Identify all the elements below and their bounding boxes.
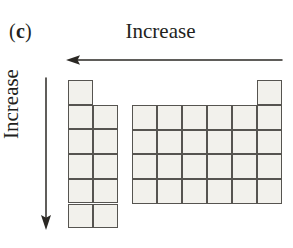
table-cell	[132, 179, 157, 204]
table-cell	[207, 105, 232, 130]
table-cell	[232, 179, 257, 204]
table-cell	[93, 204, 118, 229]
table-cell	[93, 154, 118, 179]
table-cell	[182, 130, 207, 155]
table-cell	[68, 129, 93, 154]
table-cell	[132, 130, 157, 155]
table-cell	[93, 105, 118, 130]
table-cell	[157, 105, 182, 130]
periodic-trend-figure: (c) Increase Increase	[0, 0, 293, 248]
table-cell	[207, 130, 232, 155]
table-cell	[257, 130, 282, 155]
table-cell	[232, 154, 257, 179]
table-cell	[182, 105, 207, 130]
table-cell	[207, 179, 232, 204]
table-cell	[132, 154, 157, 179]
table-cell	[132, 105, 157, 130]
table-cell	[93, 129, 118, 154]
table-cell	[257, 80, 282, 105]
table-cell	[207, 154, 232, 179]
table-cell	[232, 105, 257, 130]
table-cell	[93, 179, 118, 204]
table-cell	[68, 154, 93, 179]
table-cell	[157, 179, 182, 204]
table-cell	[182, 154, 207, 179]
table-cell	[68, 80, 93, 105]
table-cell	[68, 105, 93, 130]
table-cell	[257, 105, 282, 130]
periodic-table-grid	[0, 0, 293, 248]
table-cell	[257, 179, 282, 204]
table-cell	[257, 154, 282, 179]
table-cell	[157, 130, 182, 155]
table-cell	[157, 154, 182, 179]
table-cell	[68, 204, 93, 229]
table-cell	[68, 179, 93, 204]
table-cell	[232, 130, 257, 155]
table-cell	[182, 179, 207, 204]
